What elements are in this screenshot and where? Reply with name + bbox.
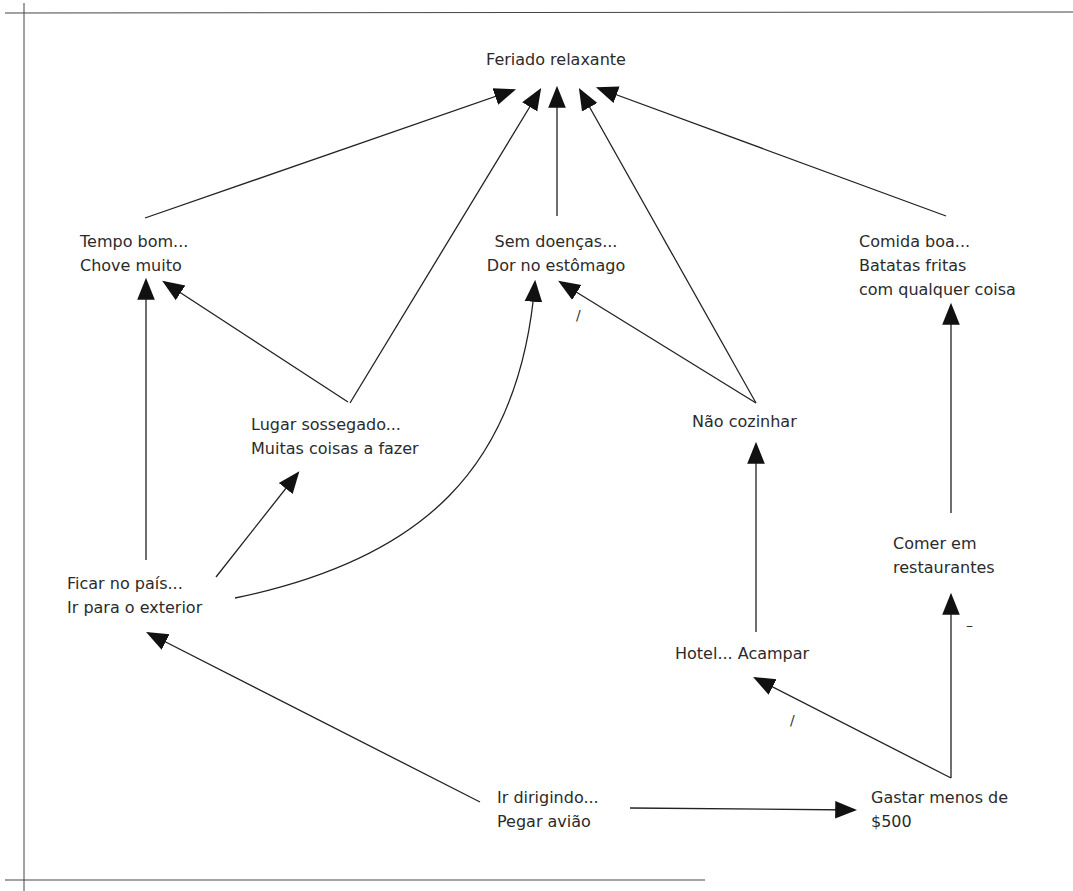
polarity-mark-doencas: / [576,308,581,322]
node-label: Ficar no país... [67,572,202,596]
node-feriado-relaxante: Feriado relaxante [456,48,656,72]
edge-pais-lugar [216,473,298,577]
edge-dirigindo-pais [148,633,480,802]
node-label: Pegar avião [497,810,599,834]
node-label: Ir dirigindo... [497,786,599,810]
node-label: Dor no estômago [466,254,646,278]
node-label: Chove muito [80,254,188,278]
polarity-mark-restaurantes: – [966,618,973,632]
node-label: Lugar sossegado... [251,413,419,437]
node-gastar-menos: Gastar menos de $500 [871,786,1008,834]
node-ficar-no-pais: Ficar no país... Ir para o exterior [67,572,202,620]
node-label: $500 [871,810,1008,834]
edges-layer [0,0,1073,891]
node-label: restaurantes [893,556,995,580]
edge-comida-feriado [598,88,946,216]
node-hotel-acampar: Hotel... Acampar [675,642,809,666]
node-label: Gastar menos de [871,786,1008,810]
node-label: Hotel... Acampar [675,642,809,666]
node-label: Feriado relaxante [456,48,656,72]
frame-top-line [5,12,1073,13]
node-label: com qualquer coisa [859,278,1016,302]
edge-lugar-tempo [164,282,348,402]
node-tempo-bom: Tempo bom... Chove muito [80,230,188,278]
node-label: Muitas coisas a fazer [251,437,419,461]
edge-gastar-hotel [755,678,951,778]
node-label: Sem doenças... [466,230,646,254]
node-comer-em-restaurantes: Comer em restaurantes [893,532,995,580]
node-label: Comer em [893,532,995,556]
diagram-canvas: Feriado relaxante Tempo bom... Chove mui… [0,0,1073,891]
edge-cozinhar-doencas [560,282,756,403]
node-label: Batatas fritas [859,254,1016,278]
node-ir-dirigindo: Ir dirigindo... Pegar avião [497,786,599,834]
node-label: Não cozinhar [692,410,797,434]
node-label: Ir para o exterior [67,596,202,620]
node-nao-cozinhar: Não cozinhar [692,410,797,434]
edge-dirigindo-gastar [630,808,855,810]
node-comida-boa: Comida boa... Batatas fritas com qualque… [859,230,1016,302]
polarity-mark-hotel: / [790,713,795,727]
node-label: Tempo bom... [80,230,188,254]
edge-tempo-feriado [145,90,514,218]
node-lugar-sossegado: Lugar sossegado... Muitas coisas a fazer [251,413,419,461]
node-sem-doencas: Sem doenças... Dor no estômago [466,230,646,278]
node-label: Comida boa... [859,230,1016,254]
